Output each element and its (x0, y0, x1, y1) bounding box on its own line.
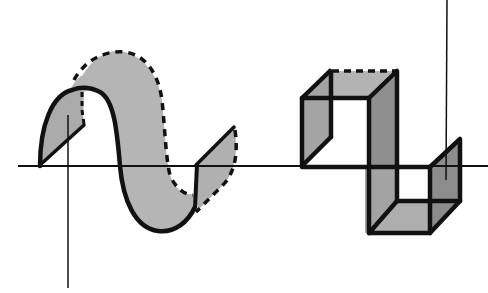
right-vertical-axis (446, 0, 447, 180)
wave-diagram (0, 0, 488, 293)
sine-ribbon-fill (40, 51, 236, 232)
square-wave-ribbon (302, 71, 460, 233)
sine-end-vertical (195, 164, 197, 208)
sine-end-wedge-fill (196, 127, 236, 210)
axes (18, 0, 488, 288)
sine-wave-ribbon (40, 51, 236, 232)
